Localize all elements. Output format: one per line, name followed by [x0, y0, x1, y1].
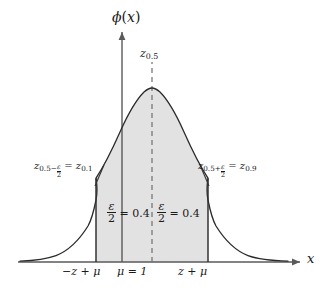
left-quantile-sub-fraction: ε2 [57, 164, 61, 179]
right-area-denominator: 2 [157, 212, 166, 224]
median-quantile-label: z0.5 [140, 48, 158, 59]
left-quantile-label: z0.5−ε2 = z0.1 [34, 160, 93, 175]
paren-close: ) [135, 9, 140, 25]
left-area-equals: = [120, 207, 129, 220]
right-quantile-sub-numerator: ε [221, 164, 225, 171]
left-quantile-sub-prefix: 0.5− [39, 164, 56, 173]
right-area-label: ε2 = 0.4 [157, 202, 200, 225]
left-quantile-equals: = [64, 160, 72, 171]
right-area-numerator: ε [157, 201, 166, 212]
right-quantile-result-subscript: 0.9 [245, 164, 256, 173]
right-quantile-sub-prefix: 0.5+ [203, 164, 220, 173]
right-area-value: 0.4 [182, 207, 200, 220]
x-axis-label: x [307, 252, 314, 265]
left-quantile-result-subscript: 0.1 [81, 164, 92, 173]
mu-tick-label: μ = 1 [117, 266, 147, 277]
left-quantile-sub-numerator: ε [57, 164, 61, 171]
left-area-fraction: ε2 [107, 201, 116, 224]
normal-distribution-figure: ϕ(x) z0.5 z0.5−ε2 = z0.1 z0.5+ε2 = z0.9 … [0, 0, 326, 302]
x-axis-arrowhead [292, 259, 300, 266]
right-quantile-sub-denominator: 2 [221, 171, 225, 179]
median-base: z [140, 47, 146, 60]
phi-symbol: ϕ [112, 9, 122, 25]
distribution-plot [0, 0, 326, 302]
left-quantile-sub-denominator: 2 [57, 171, 61, 179]
right-area-fraction: ε2 [157, 201, 166, 224]
right-quantile-equals: = [228, 160, 236, 171]
right-quantile-subscript: 0.5+ε2 [203, 164, 225, 173]
left-area-value: 0.4 [132, 207, 150, 220]
right-quantile-label: z0.5+ε2 = z0.9 [198, 160, 257, 175]
phi-argument: x [127, 9, 135, 25]
left-area-denominator: 2 [107, 212, 116, 224]
y-axis-label: ϕ(x) [112, 10, 140, 24]
median-subscript: 0.5 [146, 52, 159, 61]
right-area-equals: = [170, 207, 179, 220]
y-axis-arrowhead [119, 32, 126, 40]
right-tick-label: z + μ [178, 266, 207, 277]
left-tick-label: −z + μ [62, 266, 100, 277]
left-area-numerator: ε [107, 201, 116, 212]
left-area-label: ε2 = 0.4 [107, 202, 150, 225]
left-quantile-subscript: 0.5−ε2 [39, 164, 61, 173]
right-quantile-sub-fraction: ε2 [221, 164, 225, 179]
